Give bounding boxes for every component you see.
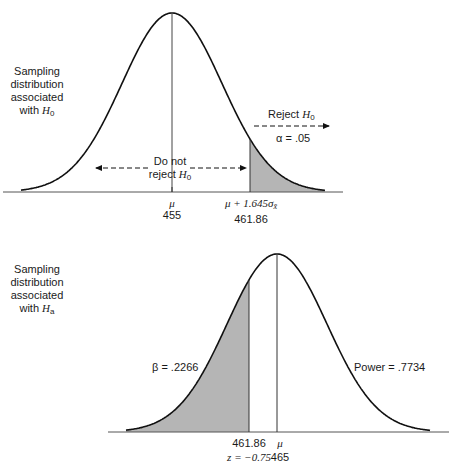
- ha-side-label: Sampling distribution associated with Ha: [4, 263, 70, 318]
- h0-critical-label: μ + 1.645σx̄ 461.86: [216, 197, 286, 225]
- hypothesis-subscript: 0: [310, 113, 314, 122]
- hypothesis-subscript: 0: [50, 109, 54, 118]
- reject-h0-label: Reject H0: [268, 108, 315, 124]
- z-label: z = −0.75: [215, 451, 271, 463]
- side-label-line: distribution: [4, 276, 70, 289]
- do-not-reject-label: Do not reject H0: [148, 155, 192, 184]
- hypothesis-symbol: H: [42, 302, 50, 314]
- hypothesis-symbol: H: [179, 168, 187, 180]
- beta-shaded-region: [126, 280, 249, 432]
- hypothesis-subscript: 0: [187, 173, 191, 182]
- side-label-line: Sampling: [4, 65, 70, 78]
- critical-value: 461.86: [216, 213, 286, 225]
- hypothesis-symbol: H: [302, 108, 310, 120]
- ha-critical-label: 461.86: [229, 437, 269, 449]
- side-label-line: Sampling: [4, 263, 70, 276]
- side-label-line: with Ha: [4, 302, 70, 318]
- critical-expr-text: μ + 1.645σ: [225, 197, 274, 209]
- power-label: Power = .7734: [354, 361, 425, 373]
- reject-text: Reject: [268, 108, 302, 120]
- beta-label: β = .2266: [152, 361, 198, 373]
- mu-symbol: μ: [270, 437, 290, 449]
- mu-value: 465: [270, 451, 290, 463]
- reject-text: reject: [149, 168, 179, 180]
- ha-distribution: [108, 254, 449, 432]
- reject-line: reject H0: [148, 168, 192, 184]
- side-label-line: associated: [4, 289, 70, 302]
- z-value: z = −0.75: [227, 451, 271, 463]
- side-label-text: with: [19, 104, 42, 116]
- hypothesis-subscript: a: [50, 307, 54, 316]
- side-label-line: distribution: [4, 78, 70, 91]
- h0-mean-label: μ 455: [157, 197, 187, 221]
- critical-subscript: x̄: [274, 202, 278, 211]
- side-label-text: with: [19, 302, 42, 314]
- side-label-line: with H0: [4, 104, 70, 120]
- alpha-shaded-region: [250, 139, 325, 192]
- ha-mean-label: μ 465: [270, 437, 290, 463]
- mu-symbol: μ: [157, 197, 187, 209]
- ha-normal-curve: [126, 254, 430, 430]
- side-label-line: associated: [4, 91, 70, 104]
- mu-value: 455: [157, 209, 187, 221]
- alpha-text: α = .05: [276, 132, 310, 144]
- do-not-text: Do not: [148, 155, 192, 167]
- hypothesis-symbol: H: [42, 104, 50, 116]
- power-text: Power = .7734: [354, 361, 425, 373]
- critical-expr: μ + 1.645σx̄: [216, 197, 286, 213]
- h0-side-label: Sampling distribution associated with H0: [4, 65, 70, 120]
- critical-value: 461.86: [232, 437, 266, 449]
- beta-text: β = .2266: [152, 361, 198, 373]
- alpha-label: α = .05: [276, 132, 310, 144]
